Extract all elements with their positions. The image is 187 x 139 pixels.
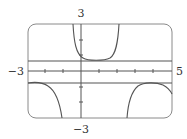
x-max-label: 5 xyxy=(176,65,183,78)
graph-canvas: 3 −3 −3 5 xyxy=(0,0,187,139)
lower-left-branch-curve xyxy=(28,82,62,118)
x-min-label: −3 xyxy=(8,65,24,78)
upper-branch-curve xyxy=(73,24,119,60)
y-min-label: −3 xyxy=(73,123,89,136)
y-max-label: 3 xyxy=(78,7,85,20)
lower-right-branch-curve xyxy=(127,83,172,118)
